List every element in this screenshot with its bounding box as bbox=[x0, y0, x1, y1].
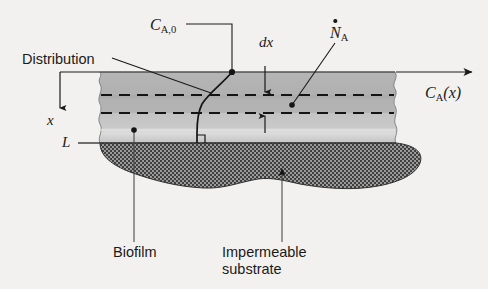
depth-axis bbox=[60, 72, 100, 108]
molar-flux-point bbox=[289, 102, 295, 108]
surface-concentration-leader bbox=[186, 24, 232, 70]
substrate-label: Impermeable substrate bbox=[222, 244, 307, 278]
biofilm-layer bbox=[99, 72, 397, 143]
concentration-profile-label: CA(x) bbox=[425, 84, 461, 103]
substrate-label-line2: substrate bbox=[222, 261, 307, 278]
molar-flux-symbol: N bbox=[330, 24, 341, 41]
concentration-profile-argument: (x) bbox=[443, 84, 461, 101]
substrate-label-line1: Impermeable bbox=[222, 244, 307, 261]
distribution-label: Distribution bbox=[22, 51, 95, 67]
molar-flux-label: NA bbox=[330, 24, 348, 43]
concentration-profile-symbol: C bbox=[425, 84, 436, 101]
impermeable-substrate bbox=[100, 143, 421, 189]
film-thickness-label: L bbox=[62, 134, 70, 151]
biofilm-leader-point bbox=[131, 127, 137, 133]
surface-concentration-subscript: A,0 bbox=[161, 24, 177, 35]
surface-concentration-symbol: C bbox=[150, 16, 161, 33]
differential-element-band bbox=[100, 95, 395, 113]
substrate-body bbox=[100, 143, 421, 189]
surface-concentration-label: CA,0 bbox=[150, 16, 176, 35]
molar-flux-symbol-wrap: N bbox=[330, 24, 341, 42]
biofilm-label: Biofilm bbox=[113, 244, 157, 260]
differential-thickness-label: dx bbox=[259, 34, 273, 51]
depth-axis-label: x bbox=[47, 112, 54, 129]
molar-flux-subscript: A bbox=[341, 32, 349, 43]
